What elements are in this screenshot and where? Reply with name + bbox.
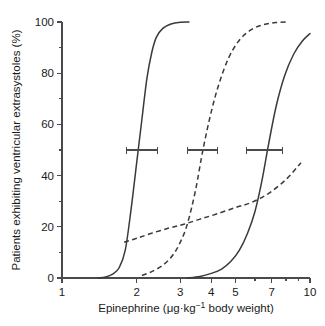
errorbar-1 xyxy=(126,147,157,154)
chart-errorbars xyxy=(126,147,282,154)
errorbar-3 xyxy=(247,147,283,154)
x-axis-tick-labels: 12345710 xyxy=(59,286,317,298)
x-tick-label-3: 3 xyxy=(177,286,183,298)
x-tick-label-1: 1 xyxy=(59,286,65,298)
x-tick-label-7: 7 xyxy=(268,286,274,298)
x-tick-label-2: 2 xyxy=(133,286,139,298)
curve-3-solid xyxy=(187,34,310,278)
y-axis-ticks xyxy=(57,22,62,278)
chart-figure: 020406080100 12345710 Epinephrine (μg·kg… xyxy=(0,0,325,326)
y-axis: 020406080100 xyxy=(35,16,62,284)
x-axis-ticks xyxy=(62,278,310,283)
y-tick-label-40: 40 xyxy=(41,170,54,182)
curve-2-dashed xyxy=(142,22,289,275)
y-tick-label-60: 60 xyxy=(41,118,54,130)
y-tick-label-0: 0 xyxy=(48,272,54,284)
y-axis-title: Patients exhibiting ventricular extrasys… xyxy=(10,29,22,270)
y-axis-tick-labels: 020406080100 xyxy=(35,16,54,284)
x-tick-label-10: 10 xyxy=(304,286,317,298)
y-tick-label-20: 20 xyxy=(41,221,54,233)
x-axis: 12345710 xyxy=(59,278,317,298)
epinephrine-dose-response-chart: 020406080100 12345710 Epinephrine (μg·kg… xyxy=(0,0,325,326)
x-tick-label-4: 4 xyxy=(208,286,215,298)
x-tick-label-5: 5 xyxy=(232,286,238,298)
curve-4-dashed-shallow xyxy=(124,163,301,242)
y-tick-label-100: 100 xyxy=(35,16,54,28)
y-tick-label-80: 80 xyxy=(41,67,54,79)
x-axis-title: Epinephrine (μg·kg−1 body weight) xyxy=(98,300,274,314)
